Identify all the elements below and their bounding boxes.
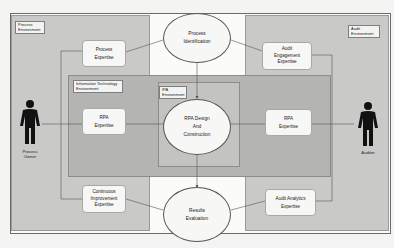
rpa-design-line-1: RPA Design bbox=[184, 115, 210, 123]
process-identification-node: Process Identification bbox=[163, 13, 231, 63]
continuous-improvement-line-3: Expertise bbox=[94, 202, 113, 209]
audit-engagement-line-3: Expertise bbox=[277, 59, 296, 66]
rpa-expertise-left-line-2: Expertise bbox=[94, 122, 113, 130]
audit-analytics-line-1: Audit Analytics bbox=[276, 195, 306, 203]
continuous-improvement-expertise-node: Continuous Improvement Expertise bbox=[82, 185, 126, 213]
process-expertise-node: Process Expertise bbox=[82, 40, 126, 67]
audit-engagement-expertise-node: Audit Engagement Expertise bbox=[262, 42, 312, 70]
auditor-person-icon bbox=[357, 101, 379, 147]
process-expertise-line-1: Process bbox=[96, 46, 113, 54]
process-identification-line-1: Process bbox=[188, 30, 205, 38]
rpa-expertise-right-line-1: RPA bbox=[284, 115, 293, 123]
rpa-design-line-3: Construction bbox=[184, 131, 211, 139]
results-evaluation-node: Results Evaluation bbox=[163, 187, 231, 242]
rpa-expertise-left-node: RPA Expertise bbox=[82, 108, 126, 135]
audit-analytics-line-2: Expertise bbox=[281, 203, 300, 211]
rpa-design-construction-node: RPA Design And Construction bbox=[163, 99, 231, 155]
results-evaluation-line-1: Results bbox=[189, 207, 205, 215]
results-evaluation-line-2: Evaluation bbox=[186, 215, 208, 223]
rpa-design-line-2: And bbox=[193, 123, 202, 131]
auditor-label: Auditor bbox=[353, 150, 383, 155]
rpa-expertise-right-node: RPA Expertise bbox=[265, 109, 312, 136]
process-owner-label: Process Owner bbox=[15, 149, 45, 159]
rpa-expertise-right-line-2: Expertise bbox=[279, 123, 298, 131]
process-owner-person-icon bbox=[19, 99, 41, 145]
rpa-expertise-left-line-1: RPA bbox=[99, 114, 108, 122]
process-identification-line-2: Identification bbox=[184, 38, 211, 46]
process-expertise-line-2: Expertise bbox=[94, 54, 113, 62]
audit-analytics-expertise-node: Audit Analytics Expertise bbox=[265, 189, 316, 216]
process-owner-label-line-2: Owner bbox=[15, 154, 45, 159]
